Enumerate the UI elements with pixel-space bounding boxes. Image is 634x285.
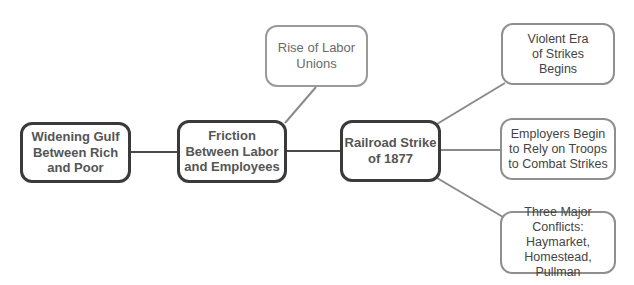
- node-label: Friction Between Labor and Employees: [180, 128, 284, 175]
- node-labor-unions: Rise of Labor Unions: [265, 25, 368, 87]
- edge-railroad-violent: [437, 83, 505, 124]
- node-label: Employers Begin to Rely on Troops to Com…: [506, 127, 610, 172]
- node-widening-gulf: Widening Gulf Between Rich and Poor: [20, 122, 131, 183]
- node-label: Three Major Conflicts: Haymarket, Homest…: [505, 205, 611, 280]
- node-friction: Friction Between Labor and Employees: [177, 120, 287, 183]
- node-label: Railroad Strike of 1877: [343, 135, 438, 166]
- node-label: Widening Gulf Between Rich and Poor: [23, 129, 128, 176]
- node-label: Rise of Labor Unions: [277, 40, 356, 71]
- node-label: Violent Era of Strikes Begins: [521, 32, 595, 77]
- node-violent-era: Violent Era of Strikes Begins: [501, 23, 615, 85]
- node-three-conflicts: Three Major Conflicts: Haymarket, Homest…: [500, 211, 616, 274]
- edge-friction-unions: [285, 87, 316, 123]
- node-railroad-strike: Railroad Strike of 1877: [340, 120, 441, 182]
- node-employers-troops: Employers Begin to Rely on Troops to Com…: [500, 118, 616, 180]
- edge-railroad-conflicts: [437, 178, 503, 217]
